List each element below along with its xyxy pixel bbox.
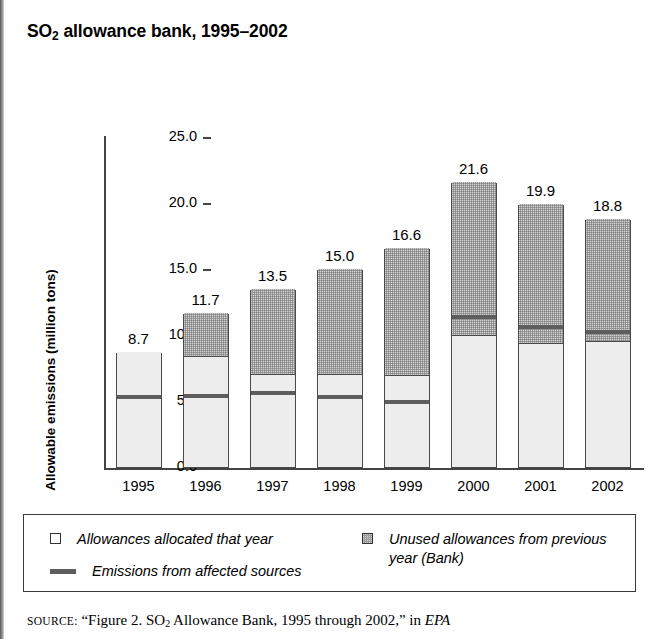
source-label: SOURCE:	[27, 615, 78, 627]
source-subscript: 2	[165, 618, 170, 629]
title-prefix: SO	[27, 21, 52, 41]
title-suffix: allowance bank, 1995–2002	[59, 21, 288, 41]
source-caption: SOURCE: “Figure 2. SO2 Allowance Bank, 1…	[27, 612, 450, 629]
bar-stack	[384, 249, 430, 468]
bar-value-label: 16.6	[366, 226, 448, 243]
bar-segment-allocated	[117, 352, 161, 467]
bar-segment-allocated	[385, 376, 429, 467]
bar-stack	[317, 270, 363, 468]
bar-segment-bank	[318, 269, 362, 375]
legend-swatch-bank-icon	[362, 533, 373, 544]
bar-segment-allocated	[586, 342, 630, 467]
bar-group: 15.01998	[317, 138, 363, 468]
legend-label-emissions: Emissions from affected sources	[92, 562, 302, 581]
bar-segment-allocated	[318, 375, 362, 467]
bar-segment-allocated	[251, 375, 295, 467]
bar-group: 16.61999	[384, 138, 430, 468]
figure-so2-allowance-bank: SO2 allowance bank, 1995–2002 Allowable …	[0, 0, 651, 639]
source-text-before: “Figure 2. SO	[81, 612, 165, 628]
bar-segment-bank	[385, 248, 429, 376]
legend-item-allocated: Allowances allocated that year	[50, 530, 273, 549]
emissions-marker-line	[385, 400, 429, 404]
page-title: SO2 allowance bank, 1995–2002	[27, 21, 288, 42]
bar-stack	[451, 183, 497, 468]
bar-segment-bank	[586, 219, 630, 342]
emissions-marker-line	[117, 395, 161, 399]
emissions-marker-line	[184, 394, 228, 398]
bar-segment-allocated	[452, 336, 496, 467]
bar-stack	[183, 314, 229, 468]
bar-value-label: 21.6	[433, 160, 515, 177]
bar-segment-bank	[251, 289, 295, 375]
bar-stack	[518, 205, 564, 468]
bar-group: 18.82002	[585, 138, 631, 468]
y-axis-title: Allowable emissions (million tons)	[43, 230, 58, 530]
emissions-marker-line	[318, 395, 362, 399]
bar-segment-bank	[519, 204, 563, 344]
source-text-after: Allowance Bank, 1995 through 2002,” in	[170, 612, 425, 628]
bar-stack	[250, 290, 296, 468]
x-axis-label: 2002	[567, 478, 649, 494]
legend-item-emissions: Emissions from affected sources	[50, 562, 302, 581]
emissions-marker-line	[452, 315, 496, 319]
emissions-marker-line	[251, 391, 295, 395]
bar-value-label: 11.7	[165, 291, 247, 308]
bar-stack	[116, 353, 162, 468]
bar-segment-allocated	[519, 344, 563, 467]
bar-value-label: 15.0	[299, 247, 381, 264]
bar-segment-allocated	[184, 357, 228, 467]
legend-swatch-allocated-icon	[50, 533, 61, 544]
bar-value-label: 8.7	[98, 330, 180, 347]
legend-swatch-emissions-icon	[50, 569, 76, 574]
legend-label-bank: Unused allowances from previous year (Ba…	[389, 530, 624, 568]
bar-segment-bank	[184, 313, 228, 358]
emissions-marker-line	[519, 325, 563, 329]
bar-stack	[585, 220, 631, 468]
plot-area: Allowable emissions (million tons) 25.0 …	[105, 138, 641, 468]
bar-value-label: 18.8	[567, 197, 649, 214]
bar-group: 21.62000	[451, 138, 497, 468]
source-publication: EPA	[425, 612, 451, 628]
bar-group: 11.71996	[183, 138, 229, 468]
bar-group: 13.51997	[250, 138, 296, 468]
emissions-marker-line	[586, 330, 630, 334]
bar-value-label: 13.5	[232, 267, 314, 284]
legend-label-allocated: Allowances allocated that year	[77, 530, 273, 549]
chart-legend: Allowances allocated that year Unused al…	[23, 514, 636, 592]
legend-item-bank: Unused allowances from previous year (Ba…	[362, 530, 624, 568]
bar-group: 19.92001	[518, 138, 564, 468]
source-text: “Figure 2. SO2 Allowance Bank, 1995 thro…	[81, 612, 450, 628]
bar-group: 8.71995	[116, 138, 162, 468]
title-subscript: 2	[52, 29, 59, 43]
bar-segment-bank	[452, 182, 496, 336]
